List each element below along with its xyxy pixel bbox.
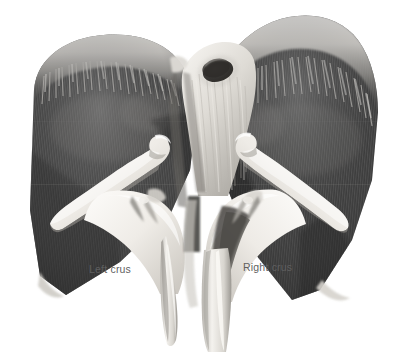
diaphragm-illustration <box>0 0 409 354</box>
label-right-crus: Right crus <box>243 262 292 273</box>
diaphragm-figure: Left crus Right crus <box>0 0 409 354</box>
label-left-crus: Left crus <box>89 264 131 275</box>
